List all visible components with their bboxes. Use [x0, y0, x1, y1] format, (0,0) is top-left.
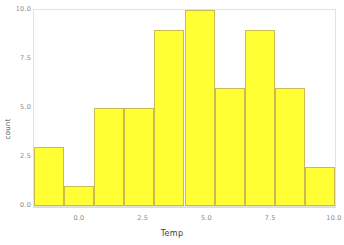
histogram-bar: [124, 108, 154, 206]
histogram-bar: [275, 88, 305, 206]
x-tick-label: 5.0: [191, 214, 221, 222]
histogram-bar: [305, 167, 335, 206]
plot-panel: [33, 9, 336, 207]
x-axis-line: [33, 207, 336, 208]
y-tick-label: 2.5: [7, 152, 31, 160]
histogram-bar: [94, 108, 124, 206]
x-axis-title: Temp: [0, 229, 344, 238]
histogram-chart: count 0.02.55.07.510.0 0.02.55.07.510.0 …: [0, 0, 344, 245]
y-tick-label: 7.5: [7, 54, 31, 62]
y-tick-label: 5.0: [7, 103, 31, 111]
histogram-bar: [215, 88, 245, 206]
x-tick-label: 10.0: [319, 214, 344, 222]
histogram-bar: [245, 30, 275, 206]
histogram-bar: [185, 10, 215, 206]
x-tick-label: 2.5: [128, 214, 158, 222]
histogram-bar: [64, 186, 94, 206]
y-tick-label: 10.0: [7, 5, 31, 13]
histogram-bar: [154, 30, 184, 206]
y-axis-tick-labels: 0.02.55.07.510.0: [6, 0, 31, 245]
bars-container: [34, 10, 335, 206]
x-tick-label: 7.5: [255, 214, 285, 222]
x-tick-label: 0.0: [64, 214, 94, 222]
x-axis-tick-labels: 0.02.55.07.510.0: [0, 214, 344, 226]
y-tick-label: 0.0: [7, 201, 31, 209]
histogram-bar: [34, 147, 64, 206]
